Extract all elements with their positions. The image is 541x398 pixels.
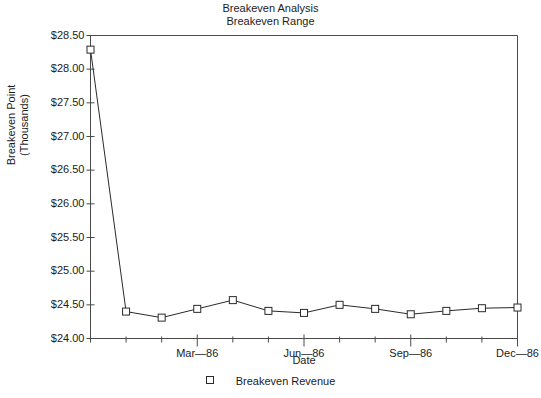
- x-axis-tick-label: Jun—86: [264, 347, 344, 359]
- plot-frame: [91, 36, 518, 339]
- data-point-marker: [229, 297, 236, 304]
- x-axis-tick-label: Sep—86: [371, 347, 451, 359]
- legend-square-marker-icon: [206, 376, 214, 384]
- y-axis-tick-label: $27.00: [23, 130, 85, 142]
- y-axis-tick-label: $25.00: [23, 264, 85, 276]
- y-axis-tick-label: $26.50: [23, 163, 85, 175]
- y-axis-tick-label: $26.00: [23, 197, 85, 209]
- data-point-marker: [336, 301, 343, 308]
- data-point-marker: [194, 305, 201, 312]
- data-point-marker: [158, 314, 165, 321]
- breakeven-chart: Breakeven Analysis Breakeven Range Break…: [0, 0, 541, 398]
- x-axis-tick-label: Mar—86: [157, 347, 237, 359]
- y-axis-title-line1: Breakeven Point: [5, 35, 18, 215]
- y-axis-tick-label: $24.50: [23, 298, 85, 310]
- data-point-marker: [123, 308, 130, 315]
- data-point-marker: [514, 304, 521, 311]
- legend-entry-label: Breakeven Revenue: [236, 375, 336, 387]
- chart-title: Breakeven Analysis: [0, 2, 541, 15]
- data-point-marker: [265, 307, 272, 314]
- y-axis-tick-label: $28.00: [23, 62, 85, 74]
- data-point-marker: [301, 309, 308, 316]
- y-axis-tick-label: $24.00: [23, 332, 85, 344]
- data-point-marker: [407, 311, 414, 318]
- x-axis-tick-label: Dec—86: [478, 347, 541, 359]
- y-axis-tick-label: $28.50: [23, 29, 85, 41]
- y-axis-tick-label: $27.50: [23, 96, 85, 108]
- data-point-marker: [478, 305, 485, 312]
- data-point-marker: [87, 46, 94, 53]
- data-point-marker: [372, 305, 379, 312]
- data-point-marker: [443, 307, 450, 314]
- chart-legend: Breakeven Revenue: [0, 374, 541, 387]
- chart-subtitle: Breakeven Range: [0, 15, 541, 28]
- y-axis-tick-label: $25.50: [23, 231, 85, 243]
- series-line-0: [91, 50, 518, 318]
- chart-title-block: Breakeven Analysis Breakeven Range: [0, 2, 541, 28]
